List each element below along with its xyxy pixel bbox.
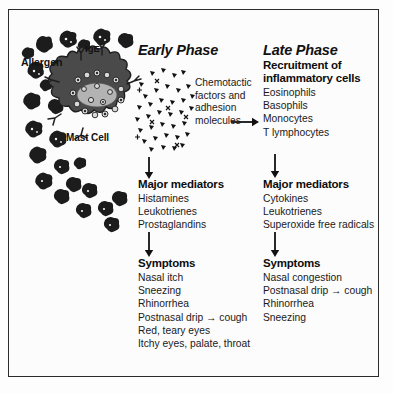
late-mediators-block: Major mediators Cytokines Leukotrienes S… (263, 178, 374, 232)
late-recruitment-list: Eosinophils Basophils Monocytes T lympho… (263, 86, 375, 139)
list-item: Itchy eyes, palate, throat (138, 337, 250, 350)
list-item: Sneezing (138, 284, 250, 297)
diagram-canvas: Allergen IgE Mast Cell Early Phase Late … (0, 0, 393, 393)
list-item: Rhinorrhea (138, 297, 250, 310)
list-item: Histamines (138, 192, 224, 205)
list-item: Eosinophils (263, 86, 375, 99)
list-item: Leukotrienes (138, 205, 224, 218)
early-symptoms-block: Symptoms Nasal itch Sneezing Rhinorrhea … (138, 257, 250, 350)
list-item: Basophils (263, 99, 375, 112)
list-item: Postnasal drip → cough (138, 311, 250, 324)
list-item: T lymphocytes (263, 126, 375, 139)
late-mediators-list: Cytokines Leukotrienes Superoxide free r… (263, 192, 374, 232)
late-symptoms-heading: Symptoms (263, 257, 372, 270)
early-symptoms-heading: Symptoms (138, 257, 250, 270)
early-phase-heading: Early Phase (138, 42, 218, 58)
list-item: Cytokines (263, 192, 374, 205)
early-symptoms-list: Nasal itch Sneezing Rhinorrhea Postnasal… (138, 271, 250, 350)
diagram-frame: Allergen IgE Mast Cell Early Phase Late … (8, 9, 379, 377)
list-item: Sneezing (263, 311, 372, 324)
list-item: Postnasal drip → cough (263, 284, 372, 297)
early-mediators-list: Histamines Leukotrienes Prostaglandins (138, 192, 224, 232)
early-mediators-block: Major mediators Histamines Leukotrienes … (138, 178, 224, 232)
ige-label: IgE (85, 43, 100, 54)
early-mediators-heading: Major mediators (138, 178, 224, 191)
list-item: Rhinorrhea (263, 297, 372, 310)
chemotactic-factors-note: Chemotactic factors and adhesion molecul… (195, 77, 253, 127)
list-item: Red, teary eyes (138, 324, 250, 337)
late-symptoms-block: Symptoms Nasal congestion Postnasal drip… (263, 257, 372, 324)
list-item: Superoxide free radicals (263, 218, 374, 231)
list-item: Nasal congestion (263, 271, 372, 284)
late-symptoms-list: Nasal congestion Postnasal drip → cough … (263, 271, 372, 324)
list-item: Monocytes (263, 112, 375, 125)
late-recruitment-heading: Recruitment of inflammatory cells (263, 59, 375, 85)
list-item: Prostaglandins (138, 218, 224, 231)
late-phase-heading: Late Phase (263, 42, 338, 58)
list-item: Nasal itch (138, 271, 250, 284)
late-mediators-heading: Major mediators (263, 178, 374, 191)
mast-cell-label: Mast Cell (66, 132, 109, 143)
allergen-label: Allergen (21, 56, 62, 68)
list-item: Leukotrienes (263, 205, 374, 218)
late-recruitment-block: Recruitment of inflammatory cells Eosino… (263, 59, 375, 139)
